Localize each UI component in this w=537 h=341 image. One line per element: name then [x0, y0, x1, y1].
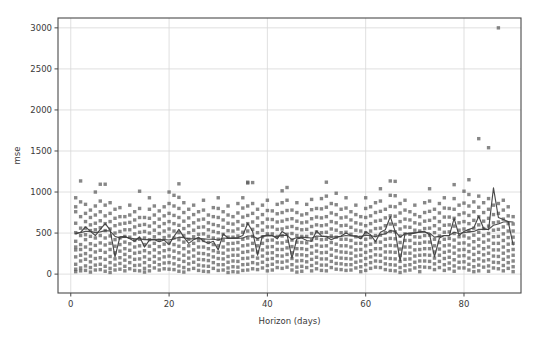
scatter-point — [334, 267, 337, 270]
scatter-point — [467, 193, 470, 196]
scatter-point — [418, 222, 421, 225]
scatter-point — [123, 258, 126, 261]
scatter-point — [271, 238, 274, 241]
scatter-point — [271, 225, 274, 228]
scatter-point — [113, 217, 116, 220]
scatter-point — [305, 220, 308, 223]
scatter-point — [89, 208, 92, 211]
x-tick-label: 80 — [459, 299, 470, 309]
scatter-point — [167, 227, 170, 230]
scatter-point — [89, 270, 92, 273]
scatter-point — [103, 214, 106, 217]
scatter-point — [84, 220, 87, 223]
scatter-point — [492, 254, 495, 257]
scatter-point — [354, 213, 357, 216]
scatter-point — [84, 269, 87, 272]
scatter-point — [369, 222, 372, 225]
scatter-point — [423, 247, 426, 250]
scatter-point — [310, 232, 313, 235]
scatter-point — [89, 266, 92, 269]
scatter-point — [325, 194, 328, 197]
scatter-point — [192, 235, 195, 238]
scatter-point — [389, 269, 392, 272]
scatter-point — [256, 268, 259, 271]
scatter-point — [285, 218, 288, 221]
scatter-point — [79, 254, 82, 257]
scatter-point — [158, 251, 161, 254]
scatter-point — [477, 263, 480, 266]
scatter-point — [477, 223, 480, 226]
scatter-point — [153, 248, 156, 251]
scatter-point — [241, 215, 244, 218]
scatter-point — [99, 268, 102, 271]
scatter-point — [217, 207, 220, 210]
scatter-point — [74, 240, 77, 243]
scatter-point — [448, 261, 451, 264]
scatter-point — [467, 204, 470, 207]
scatter-point — [374, 259, 377, 262]
scatter-point — [334, 192, 337, 195]
scatter-point — [448, 249, 451, 252]
scatter-point — [94, 257, 97, 260]
scatter-point — [128, 249, 131, 252]
scatter-point — [266, 258, 269, 261]
scatter-point — [487, 251, 490, 254]
scatter-point — [408, 251, 411, 254]
scatter-point — [74, 263, 77, 266]
scatter-point — [482, 211, 485, 214]
scatter-point — [158, 257, 161, 260]
scatter-point — [452, 258, 455, 261]
scatter-point — [162, 261, 165, 264]
scatter-point — [246, 214, 249, 217]
scatter-point — [266, 269, 269, 272]
scatter-point — [487, 270, 490, 273]
scatter-point — [369, 229, 372, 232]
scatter-point — [108, 212, 111, 215]
scatter-point — [89, 216, 92, 219]
scatter-point — [241, 196, 244, 199]
figure-container: 050010001500200025003000020406080Horizon… — [0, 0, 537, 341]
scatter-point — [202, 217, 205, 220]
scatter-point — [511, 270, 514, 273]
scatter-point — [138, 263, 141, 266]
scatter-point — [94, 268, 97, 271]
scatter-point — [413, 213, 416, 216]
scatter-point — [325, 251, 328, 254]
scatter-point — [374, 227, 377, 230]
scatter-point — [256, 216, 259, 219]
scatter-point — [403, 199, 406, 202]
scatter-point — [217, 263, 220, 266]
scatter-point — [511, 229, 514, 232]
scatter-point — [492, 221, 495, 224]
scatter-point — [443, 224, 446, 227]
scatter-point — [393, 263, 396, 266]
scatter-point — [221, 268, 224, 271]
scatter-point — [207, 270, 210, 273]
scatter-point — [94, 228, 97, 231]
scatter-point — [472, 200, 475, 203]
scatter-point — [143, 249, 146, 252]
scatter-point — [285, 259, 288, 262]
scatter-point — [467, 178, 470, 181]
scatter-point — [202, 245, 205, 248]
scatter-point — [202, 258, 205, 261]
scatter-point — [103, 251, 106, 254]
scatter-point — [359, 265, 362, 268]
scatter-point — [89, 254, 92, 257]
scatter-point — [123, 215, 126, 218]
scatter-point — [271, 251, 274, 254]
scatter-point — [452, 251, 455, 254]
scatter-point — [197, 210, 200, 213]
scatter-point — [384, 256, 387, 259]
scatter-point — [108, 267, 111, 270]
scatter-point — [251, 212, 254, 215]
scatter-point — [128, 255, 131, 258]
scatter-point — [192, 203, 195, 206]
scatter-point — [354, 242, 357, 245]
scatter-point — [113, 268, 116, 271]
scatter-point — [502, 232, 505, 235]
scatter-point — [89, 242, 92, 245]
scatter-point — [448, 243, 451, 246]
scatter-point — [398, 247, 401, 250]
scatter-point — [398, 227, 401, 230]
